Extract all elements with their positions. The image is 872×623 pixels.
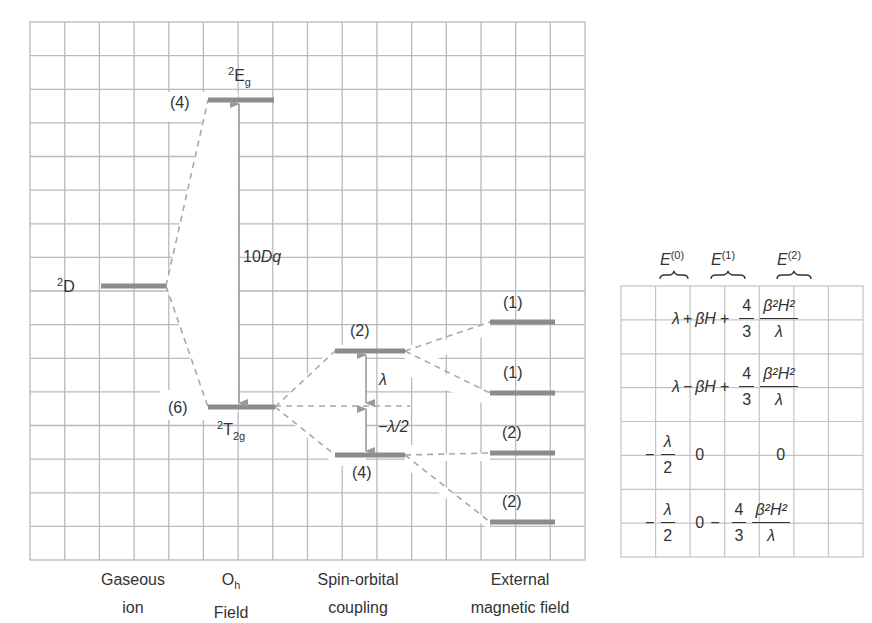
caption-oh-main: O bbox=[222, 571, 234, 588]
caption-line2: coupling bbox=[298, 594, 418, 622]
row-e0-frac: λ2 bbox=[660, 502, 675, 544]
e0-den: 2 bbox=[660, 523, 675, 544]
zeeman-degeneracy-1: (1) bbox=[503, 295, 523, 311]
frac-den: λ bbox=[772, 387, 786, 408]
row-coef: 43 bbox=[739, 298, 754, 340]
zeeman-degeneracy-3: (2) bbox=[502, 425, 522, 441]
header-e0-sup: (0) bbox=[671, 249, 684, 261]
caption-line1: External bbox=[455, 566, 585, 594]
header-e1: E(1) bbox=[711, 250, 735, 268]
so-lower-degeneracy: (4) bbox=[352, 465, 372, 481]
term-2D-main: D bbox=[63, 278, 75, 295]
caption-spin-orbital: Spin-orbital coupling bbox=[298, 566, 418, 622]
term-t2g-sub: 2g bbox=[233, 430, 245, 442]
brace-e0 bbox=[660, 271, 688, 279]
header-e2: E(2) bbox=[777, 250, 801, 268]
row-e0-frac: λ2 bbox=[660, 434, 675, 476]
frac-den: λ bbox=[764, 523, 778, 544]
header-e2-main: E bbox=[777, 251, 788, 268]
coef-den: 3 bbox=[739, 387, 754, 408]
coef-num: 4 bbox=[739, 298, 754, 319]
brace-e2 bbox=[777, 271, 811, 279]
row-frac: β²H²λ bbox=[760, 366, 797, 408]
row-op2: − bbox=[710, 514, 719, 532]
whitespace-regions bbox=[160, 92, 490, 530]
header-e2-sup: (2) bbox=[788, 249, 801, 261]
frac-den: λ bbox=[772, 319, 786, 340]
so-upper-label: λ bbox=[379, 372, 387, 388]
caption-line2: ion bbox=[88, 594, 178, 622]
row-e0: λ bbox=[672, 310, 680, 328]
e0-num: λ bbox=[661, 502, 675, 523]
frac-num: β²H² bbox=[760, 366, 797, 387]
header-e1-main: E bbox=[711, 251, 722, 268]
caption-gaseous-ion: Gaseous ion bbox=[88, 566, 178, 622]
row-op2: + bbox=[720, 310, 729, 328]
row-op2: + bbox=[720, 378, 729, 396]
row-e1: 0 bbox=[695, 446, 704, 464]
header-e1-sup: (1) bbox=[722, 249, 735, 261]
header-e0-main: E bbox=[660, 251, 671, 268]
caption-line2: magnetic field bbox=[455, 594, 585, 622]
coef-num: 4 bbox=[739, 366, 754, 387]
term-2D: 2D bbox=[57, 277, 75, 295]
e0-num: λ bbox=[661, 434, 675, 455]
row-e0-sign: − bbox=[645, 514, 654, 532]
t2g-degeneracy: (6) bbox=[168, 400, 188, 416]
caption-oh-sub: h bbox=[234, 579, 240, 591]
row-e0: λ bbox=[672, 378, 680, 396]
eg-degeneracy: (4) bbox=[170, 95, 190, 111]
table-row: − λ2 0 − 43 β²H²λ bbox=[645, 502, 790, 544]
crystal-field-num: 10 bbox=[243, 248, 261, 265]
row-frac: β²H²λ bbox=[752, 502, 789, 544]
row-frac: β²H²λ bbox=[760, 298, 797, 340]
zeeman-degeneracy-4: (2) bbox=[502, 494, 522, 510]
row-coef: 43 bbox=[739, 366, 754, 408]
caption-line2: Field bbox=[196, 599, 266, 623]
table-row: λ − βH + 43 β²H²λ bbox=[672, 366, 798, 408]
header-braces bbox=[660, 271, 811, 279]
coef-den: 3 bbox=[732, 523, 747, 544]
row-e1: βH bbox=[695, 310, 716, 328]
row-op1: + bbox=[683, 310, 692, 328]
coef-num: 4 bbox=[732, 502, 747, 523]
so-lower-label: −λ/2 bbox=[378, 419, 409, 435]
term-eg: 2Eg bbox=[228, 66, 251, 88]
term-t2g-main: T bbox=[223, 421, 233, 438]
row-coef: 43 bbox=[732, 502, 747, 544]
coef-den: 3 bbox=[739, 319, 754, 340]
so-upper-degeneracy: (2) bbox=[350, 323, 370, 339]
caption-line1: Oh bbox=[196, 566, 266, 599]
row-op1: − bbox=[683, 378, 692, 396]
row-e1: βH bbox=[695, 378, 716, 396]
table-row: − λ2 0 0 bbox=[645, 434, 785, 476]
main-grid bbox=[30, 22, 585, 560]
frac-num: β²H² bbox=[760, 298, 797, 319]
caption-oh-field: Oh Field bbox=[196, 566, 266, 623]
header-e0: E(0) bbox=[660, 250, 684, 268]
zeeman-degeneracy-2: (1) bbox=[503, 365, 523, 381]
frac-num: β²H² bbox=[752, 502, 789, 523]
term-eg-sub: g bbox=[245, 76, 251, 88]
row-e1: 0 bbox=[695, 514, 704, 532]
table-row: λ + βH + 43 β²H²λ bbox=[672, 298, 798, 340]
term-eg-main: E bbox=[234, 67, 245, 84]
row-e2: 0 bbox=[776, 446, 785, 464]
brace-e1 bbox=[711, 271, 745, 279]
crystal-field-sym: Dq bbox=[261, 248, 281, 265]
term-t2g: 2T2g bbox=[217, 420, 245, 442]
caption-line1: Spin-orbital bbox=[298, 566, 418, 594]
e0-den: 2 bbox=[660, 455, 675, 476]
caption-external-field: External magnetic field bbox=[455, 566, 585, 622]
row-e0-sign: − bbox=[645, 446, 654, 464]
crystal-field-label: 10Dq bbox=[243, 249, 281, 265]
caption-line1: Gaseous bbox=[88, 566, 178, 594]
